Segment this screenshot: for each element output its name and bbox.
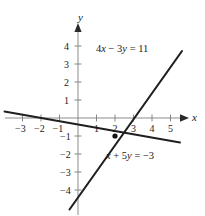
y-tick-label--2: −2 (60, 150, 71, 160)
y-tick-label-4: 4 (64, 42, 69, 52)
intersection-point-marker (112, 133, 117, 138)
x-tick-label-4: 4 (150, 124, 155, 134)
y-axis-label: y (78, 12, 83, 23)
y-tick-label-3: 3 (64, 60, 69, 70)
equation-label-line1: 4x − 3y = 11 (96, 44, 148, 55)
eq2-operator: + 5 (111, 150, 127, 161)
y-tick-label-1: 1 (64, 96, 69, 106)
eq1-rhs: = 11 (127, 43, 148, 54)
x-tick-label-1: 1 (94, 124, 99, 134)
equation-label-line2: x + 5y = −3 (106, 151, 154, 162)
x-tick-label-5: 5 (168, 124, 173, 134)
x-tick-label--3: −3 (15, 124, 26, 134)
y-tick-label-2: 2 (64, 78, 69, 88)
line-4x-3y-11 (70, 51, 183, 210)
graph-canvas (0, 0, 205, 216)
eq1-operator: − 3 (106, 43, 122, 54)
x-tick-label-2: 2 (113, 124, 118, 134)
eq2-rhs: = −3 (132, 150, 154, 161)
x-tick-label--2: −2 (34, 124, 45, 134)
y-axis-arrowhead (74, 23, 81, 32)
x-axis-label: x (192, 112, 197, 123)
y-tick-label--3: −3 (60, 168, 71, 178)
y-tick-label--1: −1 (60, 132, 71, 142)
x-tick-label-3: 3 (131, 124, 136, 134)
y-tick-label--4: −4 (60, 186, 71, 196)
coordinate-graph-figure: −3 −2 −1 1 2 3 4 5 4 3 2 1 −1 −2 −3 −4 y… (0, 0, 205, 216)
x-axis-arrowhead (180, 114, 189, 121)
